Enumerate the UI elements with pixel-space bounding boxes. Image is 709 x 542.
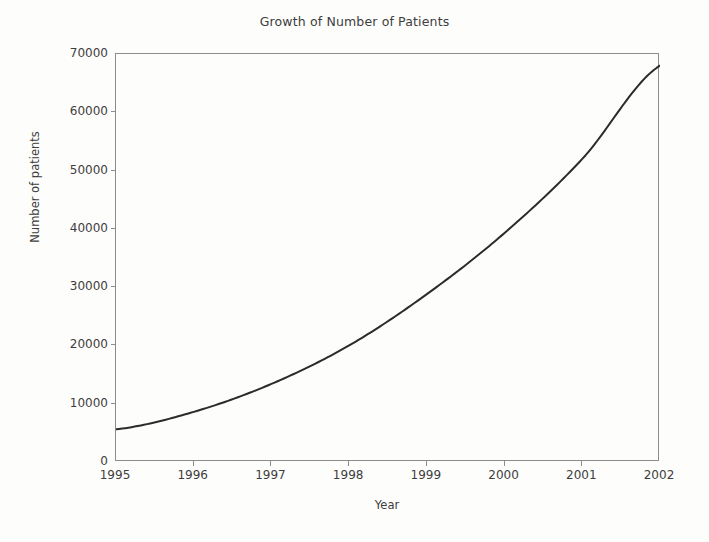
x-tick-label: 2002: [644, 468, 675, 482]
y-tick-mark: [111, 403, 115, 404]
x-tick-mark: [581, 461, 582, 466]
x-tick-label: 1995: [100, 468, 131, 482]
x-tick-mark: [193, 461, 194, 466]
y-axis-tick-labels: 010000200003000040000500006000070000: [22, 0, 108, 542]
y-tick-mark: [111, 344, 115, 345]
x-tick-label: 2000: [488, 468, 519, 482]
x-tick-mark: [348, 461, 349, 466]
y-tick-label: 10000: [28, 396, 108, 410]
x-tick-label: 1999: [411, 468, 442, 482]
y-tick-label: 40000: [28, 221, 108, 235]
x-tick-mark: [270, 461, 271, 466]
x-tick-label: 1998: [333, 468, 364, 482]
x-tick-mark: [426, 461, 427, 466]
x-tick-label: 1996: [177, 468, 208, 482]
x-tick-label: 2001: [566, 468, 597, 482]
y-tick-label: 60000: [28, 104, 108, 118]
patients-growth-line: [116, 66, 660, 430]
y-tick-label: 70000: [28, 46, 108, 60]
y-tick-label: 20000: [28, 337, 108, 351]
y-tick-mark: [111, 111, 115, 112]
plot-area: [115, 53, 659, 461]
y-tick-mark: [111, 228, 115, 229]
y-tick-label: 30000: [28, 279, 108, 293]
x-tick-label: 1997: [255, 468, 286, 482]
x-axis-label: Year: [115, 498, 659, 512]
data-line-chart: [116, 54, 660, 462]
y-tick-label: 50000: [28, 163, 108, 177]
chart-page: Growth of Number of Patients Number of p…: [0, 0, 709, 542]
y-tick-mark: [111, 286, 115, 287]
y-tick-label: 0: [28, 454, 108, 468]
x-axis-tick-labels: 19951996199719981999200020012002: [0, 468, 709, 488]
y-tick-mark: [111, 170, 115, 171]
x-tick-mark: [504, 461, 505, 466]
